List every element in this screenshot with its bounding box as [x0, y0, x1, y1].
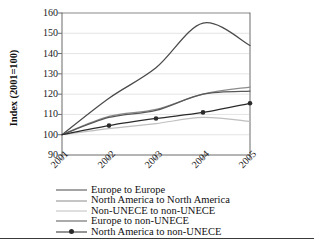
legend-swatch-icon	[56, 216, 87, 226]
bottom-divider	[0, 238, 314, 239]
x-axis-tick-labels: 20012002200320042005	[0, 0, 314, 186]
chart-plot-region: Index (2001=100) 90100110120130140150160…	[0, 0, 314, 186]
x-axis-tick-label: 2004	[190, 149, 211, 170]
x-axis-tick-label: 2003	[143, 149, 164, 170]
legend-swatch-icon	[56, 227, 87, 237]
legend-item-label: North America to non-UNECE	[87, 227, 221, 237]
legend-swatch-icon	[56, 196, 87, 206]
chart-legend: Europe to EuropeNorth America to North A…	[56, 185, 286, 237]
legend-item-4: North America to non-UNECE	[56, 227, 286, 237]
legend-swatch-icon	[56, 185, 87, 195]
legend-item-3: Europe to non-UNECE	[56, 216, 286, 226]
x-axis-tick-label: 2001	[49, 149, 70, 170]
legend-swatch-icon	[56, 206, 87, 216]
figure: Index (2001=100) 90100110120130140150160…	[0, 0, 314, 248]
x-axis-tick-label: 2002	[96, 149, 117, 170]
x-axis-tick-label: 2005	[237, 149, 258, 170]
